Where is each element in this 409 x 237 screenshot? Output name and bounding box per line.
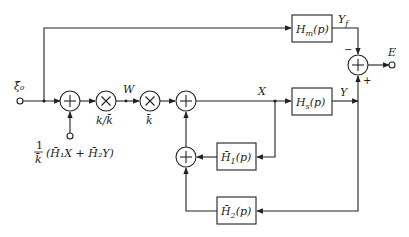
signal-label-y: Y	[340, 86, 349, 99]
signal-label-w: W	[123, 83, 136, 96]
line-h2-sum3	[186, 168, 217, 211]
block-h1-label: H̄1(p)	[220, 151, 251, 166]
side-input-label: 1 k̄ (H̄₁X + H̄₂Y)	[34, 139, 114, 166]
block-h2-label: H̄2(p)	[220, 205, 251, 220]
signal-label-yf: Yf	[338, 13, 350, 28]
output-terminal	[389, 62, 395, 68]
sum-junction-2	[176, 91, 196, 111]
svg-text:1: 1	[36, 139, 43, 152]
sum-junction-3	[176, 147, 196, 167]
block-diagram: ξ̂₀ 1 k̄ (H̄₁X + H̄₂Y) k/k̄ W k̄	[0, 0, 409, 237]
line-feedforward-hm	[44, 28, 291, 101]
gain-label-2: k̄	[146, 114, 153, 127]
input-terminal	[17, 98, 23, 104]
signal-label-x: X	[257, 85, 267, 98]
signal-point-w	[125, 100, 128, 103]
multiplier-1	[96, 91, 116, 111]
block-hs-label: Hs(p)	[295, 96, 325, 111]
line-x-h1	[257, 101, 275, 157]
output-label: E	[387, 46, 396, 59]
sum-junction-output	[348, 55, 368, 75]
sign-plus: +	[363, 75, 371, 86]
input-label: ξ̂₀	[14, 80, 25, 93]
sum-junction-1	[60, 91, 80, 111]
svg-text:(H̄₁X + H̄₂Y): (H̄₁X + H̄₂Y)	[46, 147, 114, 160]
line-y-h2	[257, 101, 358, 211]
svg-text:k̄: k̄	[35, 153, 42, 166]
multiplier-2	[140, 91, 160, 111]
side-input-terminal	[67, 133, 73, 139]
sign-minus: −	[344, 44, 352, 55]
gain-label-1: k/k̄	[96, 114, 113, 127]
